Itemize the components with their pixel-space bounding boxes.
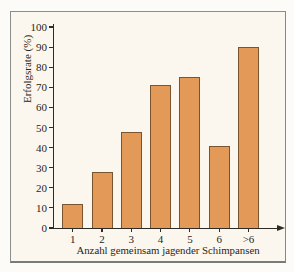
- x-tick: [160, 228, 161, 232]
- y-tick: [49, 107, 54, 108]
- y-tick-label: 40: [21, 142, 47, 154]
- x-tick: [131, 228, 132, 232]
- y-tick: [49, 47, 54, 48]
- x-tick: [248, 228, 249, 232]
- y-tick-label: 50: [21, 122, 47, 134]
- y-tick: [49, 227, 54, 228]
- x-tick: [219, 228, 220, 232]
- y-tick-label: 30: [21, 162, 47, 174]
- y-tick-label: 100: [21, 21, 47, 33]
- y-tick-label: 20: [21, 182, 47, 194]
- bar: [62, 204, 83, 228]
- y-tick: [49, 207, 54, 208]
- y-axis-label: Erfolgsrate (%): [21, 35, 33, 103]
- plot-area: 0102030405060708090100123456>6: [11, 12, 285, 261]
- bar: [150, 85, 171, 228]
- y-tick: [49, 87, 54, 88]
- y-tick: [49, 67, 54, 68]
- y-tick-label: 10: [21, 202, 47, 214]
- x-axis-arrow-icon: [277, 225, 285, 231]
- bar: [92, 172, 113, 228]
- y-tick-label: 60: [21, 101, 47, 113]
- bar: [121, 132, 142, 228]
- bar: [179, 77, 200, 228]
- x-tick: [101, 228, 102, 232]
- x-tick: [189, 228, 190, 232]
- screenshot-stage: 0102030405060708090100123456>6 Erfolgsra…: [0, 0, 294, 272]
- y-tick: [49, 147, 54, 148]
- y-tick: [49, 26, 54, 27]
- bar: [238, 47, 259, 228]
- x-tick: [72, 228, 73, 232]
- figure-frame: 0102030405060708090100123456>6 Erfolgsra…: [10, 11, 286, 263]
- y-tick-label: 0: [21, 222, 47, 234]
- y-tick: [49, 127, 54, 128]
- bar: [209, 146, 230, 228]
- x-axis-label: Anzahl gemeinsam jagender Schimpansen: [54, 244, 282, 256]
- y-tick: [49, 167, 54, 168]
- y-tick: [49, 187, 54, 188]
